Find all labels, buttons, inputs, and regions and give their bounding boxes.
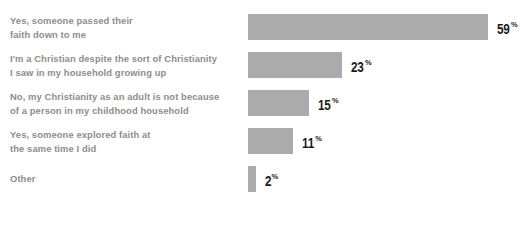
bar-value-number: 11	[302, 135, 314, 149]
percent-sign: %	[315, 134, 321, 143]
bar	[248, 90, 309, 116]
bar	[248, 14, 488, 40]
bar-track: 2%	[248, 166, 523, 192]
bar-track: 59%	[248, 14, 523, 40]
bar	[248, 128, 293, 154]
bar-row: Yes, someone passed their faith down to …	[0, 14, 523, 40]
bar-category-label: I'm a Christian despite the sort of Chri…	[10, 52, 242, 79]
bar-value-number: 2	[265, 173, 271, 187]
bar-value-label: 11%	[302, 133, 323, 150]
bar-row: Other2%	[0, 166, 523, 192]
bar-row: I'm a Christian despite the sort of Chri…	[0, 52, 523, 78]
percent-sign: %	[511, 20, 517, 29]
bar-category-label: Yes, someone passed their faith down to …	[10, 14, 242, 41]
bar-track: 15%	[248, 90, 523, 116]
bar-value-number: 23	[351, 59, 364, 73]
bar-category-label: Yes, someone explored faith at the same …	[10, 128, 242, 155]
percent-sign: %	[332, 96, 338, 105]
bar-track: 11%	[248, 128, 523, 154]
bar-value-label: 59%	[497, 19, 518, 36]
bar-value-number: 59	[497, 21, 510, 35]
percent-sign: %	[272, 172, 278, 181]
bar	[248, 52, 342, 78]
bar-value-label: 2%	[265, 171, 279, 188]
bar-category-label: No, my Christianity as an adult is not b…	[10, 90, 242, 117]
bar-value-number: 15	[318, 97, 331, 111]
bar-category-label: Other	[10, 172, 242, 186]
bar	[248, 166, 256, 192]
horizontal-bar-chart: Yes, someone passed their faith down to …	[0, 0, 523, 226]
bar-row: No, my Christianity as an adult is not b…	[0, 90, 523, 116]
bar-row: Yes, someone explored faith at the same …	[0, 128, 523, 154]
bar-value-label: 23%	[351, 57, 372, 74]
bar-value-label: 15%	[318, 95, 339, 112]
percent-sign: %	[365, 58, 371, 67]
bar-track: 23%	[248, 52, 523, 78]
